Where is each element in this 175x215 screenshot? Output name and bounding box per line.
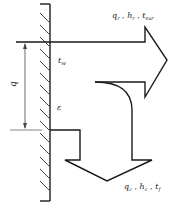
wall [40, 4, 50, 201]
dimension-label: q [8, 81, 18, 87]
heat-transfer-diagram: q tw ε qr , hr , tsur qc , hc , tf [0, 0, 175, 215]
arrowhead-down-icon [23, 123, 27, 129]
wall-temperature-label: tw [58, 56, 66, 66]
radiation-label: qr , hr , tsur [112, 11, 154, 21]
radiation-arrow [16, 27, 167, 97]
emissivity-label: ε [57, 103, 61, 112]
arrowhead-up-icon [23, 43, 27, 49]
convection-label: qc , hc , tf [124, 182, 161, 193]
convection-arrow [50, 82, 152, 181]
wall-hatching [40, 13, 49, 190]
